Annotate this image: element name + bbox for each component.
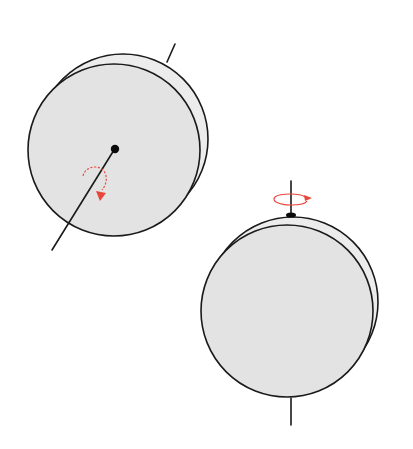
disk-1-axle-back (167, 44, 175, 62)
disk-2-group (201, 181, 378, 425)
spinning-disks-diagram (0, 0, 413, 449)
disk-2-front-face (201, 225, 373, 397)
disk-2-hub-dot (286, 212, 296, 217)
disk-2-rotation-arrowhead-icon (304, 195, 312, 201)
disk-1-group (28, 44, 208, 250)
disk-1-hub-dot (111, 145, 119, 153)
